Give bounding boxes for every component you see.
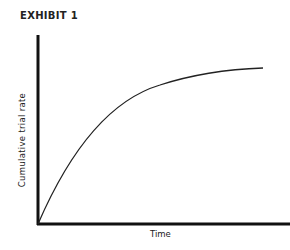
y-axis-label: Cumulative trial rate bbox=[17, 80, 27, 200]
trial-rate-curve bbox=[38, 68, 263, 224]
chart-plot bbox=[0, 0, 290, 250]
x-axis-label: Time bbox=[150, 229, 171, 239]
